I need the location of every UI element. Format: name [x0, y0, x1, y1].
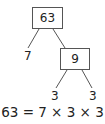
node-root-value: 63 [40, 11, 55, 25]
node-left-leaf: 7 [24, 50, 32, 62]
edge-9-3-left [56, 70, 67, 88]
edge-9-3-right [82, 70, 92, 88]
edge-63-9 [53, 29, 65, 48]
edge-63-7 [28, 29, 39, 48]
factorization-equation: 63 = 7 × 3 × 3 [0, 104, 105, 120]
node-mid-right-leaf: 3 [89, 90, 97, 102]
node-mid: 9 [60, 48, 90, 70]
node-mid-value: 9 [71, 52, 79, 66]
node-mid-left-leaf: 3 [51, 90, 59, 102]
node-root: 63 [32, 7, 63, 29]
